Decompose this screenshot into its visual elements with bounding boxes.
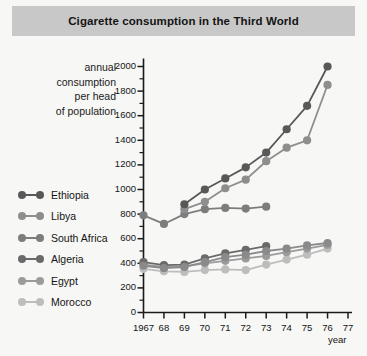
chart-figure: Cigarette consumption in the Third World… xyxy=(0,0,367,356)
plot-canvas xyxy=(0,0,367,356)
